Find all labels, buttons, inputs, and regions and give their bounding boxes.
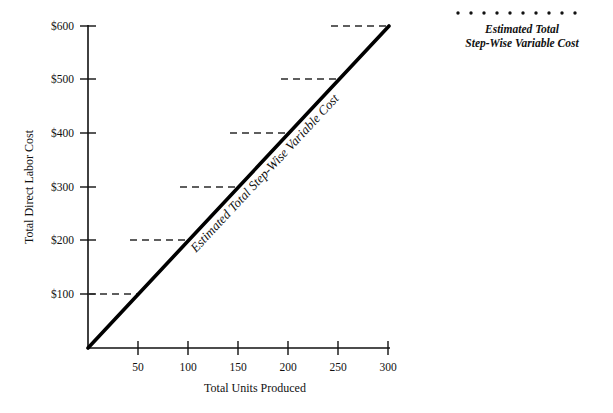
series-inline-label: Estimated Total Step-Wise Variable Cost [187,91,342,256]
estimated-total-cost-line [88,26,389,348]
x-tick-label-300: 300 [379,361,397,373]
y-tick-label-100: $100 [51,288,74,300]
y-axis-title: Total Direct Labor Cost [22,129,36,244]
y-tick-label-200: $200 [51,234,74,246]
legend-marker-dotted-line-icon [452,8,582,18]
chart-container: $100 $200 $300 $400 $500 $600 50 100 150… [0,0,613,413]
chart-legend: Estimated Total Step-Wise Variable Cost [452,6,592,50]
y-tick-label-500: $500 [51,73,74,85]
x-tick-label-150: 150 [229,361,247,373]
x-tick-label-200: 200 [279,361,297,373]
x-tick-label-100: 100 [179,361,197,373]
x-tick-label-50: 50 [132,361,144,373]
y-tick-label-300: $300 [51,181,74,193]
y-tick-label-400: $400 [51,127,74,139]
x-tick-label-250: 250 [329,361,347,373]
legend-label-line-1: Estimated Total [452,22,592,36]
step-wise-variable-cost-chart: $100 $200 $300 $400 $500 $600 50 100 150… [0,0,613,413]
x-axis-title: Total Units Produced [204,381,306,395]
y-tick-label-600: $600 [51,20,74,32]
legend-entry-label: Estimated Total Step-Wise Variable Cost [452,22,592,50]
legend-label-line-2: Step-Wise Variable Cost [452,36,592,50]
